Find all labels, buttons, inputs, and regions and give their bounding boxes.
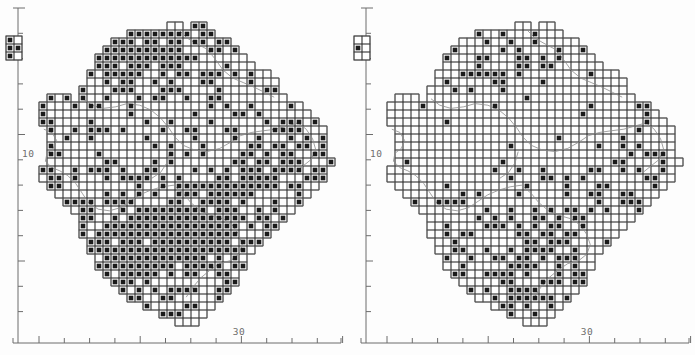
grid-cell [55, 102, 63, 110]
presence-dot [129, 48, 134, 53]
grid-cell [499, 246, 507, 254]
presence-dot [597, 168, 602, 173]
grid-cell [595, 70, 603, 78]
grid-cell [523, 78, 531, 86]
presence-dot [201, 264, 206, 269]
grid-cell [215, 150, 223, 158]
presence-dot [517, 72, 522, 77]
grid-cell [523, 158, 531, 166]
presence-dot [161, 248, 166, 253]
grid-cell [87, 110, 95, 118]
grid-cell [475, 222, 483, 230]
grid-cell [255, 94, 263, 102]
grid-cell [223, 78, 231, 86]
presence-dot [105, 160, 110, 165]
presence-dot [161, 88, 166, 93]
presence-dot [185, 192, 190, 197]
grid-cell [175, 262, 183, 270]
presence-dot [97, 128, 102, 133]
presence-dot [169, 256, 174, 261]
grid-cell [571, 238, 579, 246]
presence-dot [233, 264, 238, 269]
presence-dot [145, 280, 150, 285]
presence-dot [145, 304, 150, 309]
grid-cell [451, 70, 459, 78]
grid-cell [523, 142, 531, 150]
grid-cell [467, 238, 475, 246]
grid-cell [459, 54, 467, 62]
presence-dot [169, 312, 174, 317]
presence-dot [289, 120, 294, 125]
presence-dot [137, 184, 142, 189]
grid-cell [667, 166, 675, 174]
presence-dot [185, 256, 190, 261]
presence-dot [177, 200, 182, 205]
grid-cell [119, 102, 127, 110]
grid-cell [467, 182, 475, 190]
grid-cell [419, 174, 427, 182]
grid-cell [531, 102, 539, 110]
presence-dot [493, 272, 498, 277]
grid-cell [555, 86, 563, 94]
grid-cell [459, 86, 467, 94]
presence-dot [113, 160, 118, 165]
grid-cell [419, 110, 427, 118]
grid-cell [451, 134, 459, 142]
grid-cell [547, 30, 555, 38]
grid-cell [427, 134, 435, 142]
grid-cell [231, 118, 239, 126]
grid-cell [587, 182, 595, 190]
presence-dot [169, 272, 174, 277]
presence-dot [225, 176, 230, 181]
grid-cell [651, 118, 659, 126]
presence-dot [525, 296, 530, 301]
grid-cell [111, 182, 119, 190]
grid-cell [563, 46, 571, 54]
grid-cell [643, 134, 651, 142]
grid-cell [95, 70, 103, 78]
river-line [527, 30, 622, 97]
grid-cell [547, 38, 555, 46]
presence-dot [257, 240, 262, 245]
presence-dot [461, 264, 466, 269]
grid-cell [515, 198, 523, 206]
presence-dot [113, 280, 118, 285]
presence-dot [113, 88, 118, 93]
grid-cell [619, 94, 627, 102]
presence-dot [525, 256, 530, 261]
grid-cell [207, 126, 215, 134]
grid-cell [507, 134, 515, 142]
grid-cell [175, 126, 183, 134]
grid-cell [579, 54, 587, 62]
grid-cell [231, 198, 239, 206]
presence-dot [509, 248, 514, 253]
presence-dot [185, 32, 190, 37]
grid-cell [435, 118, 443, 126]
presence-dot [281, 216, 286, 221]
grid-cell [127, 286, 135, 294]
grid-cell [435, 142, 443, 150]
grid-cell [483, 78, 491, 86]
grid-cell [279, 174, 287, 182]
grid-cell [531, 134, 539, 142]
grid-cell [215, 126, 223, 134]
presence-dot [161, 32, 166, 37]
grid-cell [451, 190, 459, 198]
grid-cell [643, 198, 651, 206]
presence-dot [209, 80, 214, 85]
presence-dot [225, 104, 230, 109]
presence-dot [217, 232, 222, 237]
grid-cell [491, 46, 499, 54]
grid-cell [411, 150, 419, 158]
presence-dot [217, 208, 222, 213]
grid-cell [143, 78, 151, 86]
grid-cell [531, 190, 539, 198]
presence-dot [177, 72, 182, 77]
grid-cell [459, 38, 467, 46]
grid-cell [119, 142, 127, 150]
grid-cell [555, 230, 563, 238]
grid-cell [547, 54, 555, 62]
grid-cell [595, 134, 603, 142]
grid-cell [387, 174, 395, 182]
presence-dot [289, 152, 294, 157]
